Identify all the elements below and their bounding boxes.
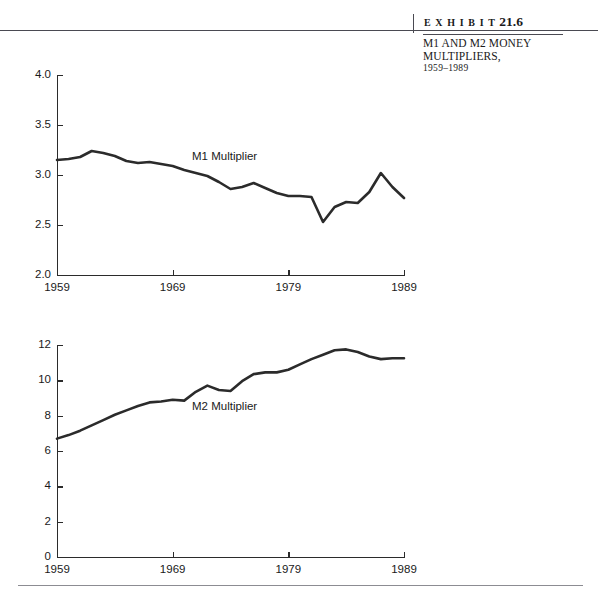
m2-series-line [57, 349, 404, 438]
m2-y-tick-label: 0 [13, 550, 51, 562]
m2-y-tick [57, 522, 63, 523]
m2-x-tick [404, 552, 405, 558]
m2-series-label: M2 Multiplier [192, 400, 257, 412]
m2-y-tick-label: 8 [13, 409, 51, 421]
exhibit-page: E X H I B I T 21.6 M1 AND M2 MONEY MULTI… [0, 0, 598, 602]
m2-y-tick [57, 486, 63, 487]
m2-x-tick-label: 1989 [376, 563, 432, 575]
m2-x-axis-line [57, 557, 404, 558]
m2-x-tick [288, 552, 289, 558]
m2-x-tick [173, 552, 174, 558]
m2-y-tick-label: 10 [13, 373, 51, 385]
m2-y-tick [57, 451, 63, 452]
m2-x-tick-label: 1959 [29, 563, 85, 575]
m2-y-tick-label: 12 [13, 338, 51, 350]
m2-y-tick-label: 4 [13, 479, 51, 491]
m2-x-tick-label: 1979 [260, 563, 316, 575]
footer-divider-rule [18, 585, 583, 586]
m2-x-tick-label: 1969 [145, 563, 201, 575]
chart-m2-multiplier: M2 Multiplier 0246810121959196919791989 [0, 0, 598, 602]
m2-y-tick [57, 380, 63, 381]
m2-y-tick [57, 345, 63, 346]
m2-x-tick [57, 552, 58, 558]
m2-y-tick-label: 6 [13, 444, 51, 456]
m2-plot-svg [0, 0, 598, 602]
m2-y-tick [57, 416, 63, 417]
m2-y-tick-label: 2 [13, 515, 51, 527]
